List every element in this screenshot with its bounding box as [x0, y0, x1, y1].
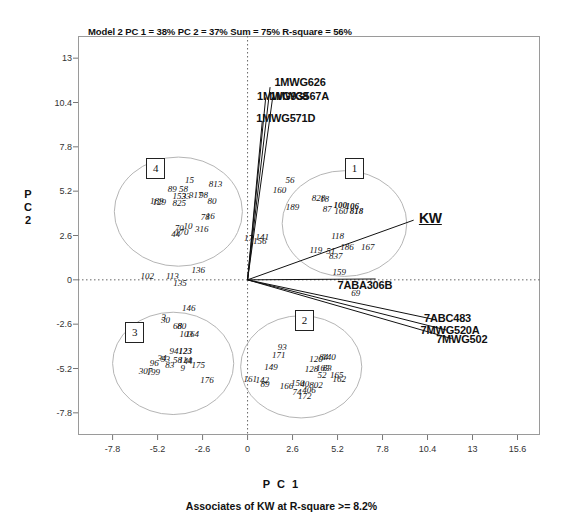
- cluster-label-4: 4: [146, 158, 165, 179]
- cluster-label-3: 3: [125, 322, 144, 343]
- vector-label-1mwg567a: 1MWG567A: [270, 90, 329, 102]
- vector-label-1mwg571d: 1MWG571D: [256, 112, 315, 124]
- data-point-label: 189: [150, 196, 164, 206]
- data-point-label: 3: [161, 312, 166, 322]
- data-point-label: 149: [264, 362, 278, 372]
- data-point-label: 102: [140, 271, 154, 281]
- pca-biplot: Model 2 PC 1 = 38% PC 2 = 37% Sum = 75% …: [0, 0, 563, 527]
- data-point-label: 136: [192, 265, 206, 275]
- y-axis-title-line-1: P: [18, 188, 38, 201]
- data-point-label: 316: [195, 224, 209, 234]
- x-axis-tick-label: 15.6: [509, 444, 527, 454]
- vector-label-7mwg502: 7MWG502: [436, 333, 487, 345]
- data-point-label: 18: [320, 194, 329, 204]
- data-point-label: 167: [361, 242, 375, 252]
- data-point-label: 176: [200, 375, 214, 385]
- x-axis-tick-label: 2.6: [286, 444, 299, 454]
- y-axis-tick-label: 5.2: [44, 186, 72, 196]
- data-point-label: 171: [272, 350, 286, 360]
- y-axis-tick-label: 7.8: [44, 142, 72, 152]
- y-axis-tick-label: 13: [44, 53, 72, 63]
- cluster-label-1: 1: [345, 158, 364, 179]
- data-point-label: 119: [309, 245, 322, 255]
- x-axis-tick-label: 0: [245, 444, 250, 454]
- data-point-label: 83: [165, 360, 174, 370]
- cluster-label-2: 2: [295, 310, 314, 331]
- vector-label-7abc483: 7ABC483: [424, 312, 471, 324]
- x-axis-tick-label: 7.8: [376, 444, 389, 454]
- data-point-label: 159: [333, 267, 347, 277]
- data-point-label: 44: [171, 229, 180, 239]
- data-point-label: 175: [192, 360, 206, 370]
- data-point-label: 146: [182, 303, 196, 313]
- data-point-label: 818: [350, 206, 364, 216]
- y-axis-tick-label: -5.2: [44, 364, 72, 374]
- data-point-label: 825: [172, 198, 186, 208]
- data-point-label: 813: [209, 179, 223, 189]
- y-axis-title: P C 2: [18, 188, 38, 227]
- vector-label-7aba306b: 7ABA306B: [338, 279, 393, 291]
- y-axis-title-line-3: 2: [18, 214, 38, 227]
- x-axis-tick-label: -7.8: [105, 444, 121, 454]
- data-point-label: 164: [185, 329, 199, 339]
- data-point-label: 156: [253, 236, 267, 246]
- data-point-label: 189: [286, 202, 300, 212]
- x-axis-tick-label: 13: [468, 444, 478, 454]
- chart-title: Model 2 PC 1 = 38% PC 2 = 37% Sum = 75% …: [88, 26, 352, 37]
- data-point-label: 89: [260, 379, 269, 389]
- x-axis-title: P C 1: [0, 478, 563, 490]
- y-axis-tick-label: 0: [44, 275, 72, 285]
- data-point-label: 160: [273, 185, 287, 195]
- data-point-label: 837: [329, 251, 343, 261]
- x-axis-tick-label: -5.2: [150, 444, 166, 454]
- data-point-label: 56: [285, 175, 294, 185]
- vector-label-kw: KW: [419, 210, 442, 226]
- data-point-label: 162: [333, 374, 347, 384]
- data-point-label: 160: [334, 206, 348, 216]
- y-axis-tick-label: -7.8: [44, 408, 72, 418]
- y-axis-tick-label: 10.4: [44, 98, 72, 108]
- data-point-label: 87: [323, 204, 332, 214]
- y-axis-tick-label: -2.6: [44, 319, 72, 329]
- x-axis-tick-label: 5.2: [331, 444, 344, 454]
- x-axis-tick-label: -2.6: [195, 444, 211, 454]
- data-point-label: 80: [208, 196, 217, 206]
- data-point-label: 16: [206, 211, 215, 221]
- data-point-label: 118: [331, 231, 344, 241]
- data-point-label: 17: [244, 233, 253, 243]
- vector-label-1mwg626: 1MWG626: [274, 76, 325, 88]
- data-point-label: 140: [322, 352, 336, 362]
- x-axis-tick-label: 10.4: [419, 444, 437, 454]
- y-axis-tick-label: 2.6: [44, 231, 72, 241]
- data-point-label: 406: [302, 385, 316, 395]
- data-point-label: 199: [147, 367, 161, 377]
- data-point-label: 135: [173, 278, 187, 288]
- data-point-label: 9: [180, 363, 185, 373]
- y-axis-title-line-2: C: [18, 201, 38, 214]
- data-point-label: 317: [189, 190, 203, 200]
- chart-subtitle: Associates of KW at R-square >= 8.2%: [0, 500, 563, 512]
